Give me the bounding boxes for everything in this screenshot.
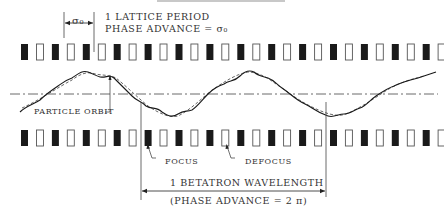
defocus-magnet <box>191 44 198 60</box>
lattice-period-label: 1 LATTICE PERIOD <box>105 12 210 22</box>
defocus-magnet <box>37 130 44 146</box>
focus-magnet <box>21 44 28 60</box>
defocus-magnet <box>37 44 44 60</box>
focus-magnet <box>361 130 368 146</box>
focus-magnet <box>52 130 59 146</box>
defocus-magnet <box>438 44 444 60</box>
defocus-label: DEFOCUS <box>245 158 292 166</box>
defocus-magnet <box>315 44 322 60</box>
defocus-magnet <box>67 130 74 146</box>
focus-label: FOCUS <box>165 158 198 166</box>
focus-magnet <box>237 130 244 146</box>
defocus-magnet <box>98 130 105 146</box>
phase-advance-sigma-label: PHASE ADVANCE = σ₀ <box>105 24 228 34</box>
defocus-leader <box>226 144 236 158</box>
defocus-magnet <box>315 130 322 146</box>
defocus-magnet <box>129 44 136 60</box>
defocus-magnet <box>407 44 414 60</box>
focus-magnet <box>83 44 90 60</box>
defocus-magnet <box>98 44 105 60</box>
defocus-magnet <box>160 130 167 146</box>
defocus-magnet <box>407 130 414 146</box>
focus-magnet <box>330 44 337 60</box>
defocus-magnet <box>160 44 167 60</box>
defocus-magnet <box>376 130 383 146</box>
focus-magnet <box>206 44 213 60</box>
focus-magnet <box>268 44 275 60</box>
betatron-wavelength-label: 1 BETATRON WAVELENGTH <box>170 178 324 188</box>
defocus-magnet <box>284 130 291 146</box>
defocus-magnet <box>67 44 74 60</box>
focus-magnet <box>176 130 183 146</box>
focus-magnet <box>52 44 59 60</box>
focus-magnet <box>145 130 152 146</box>
defocus-magnet <box>191 130 198 146</box>
phase-advance-2pi-label: (PHASE ADVANCE = 2 π) <box>170 196 307 206</box>
focus-leader <box>147 144 157 158</box>
focus-magnet <box>423 44 430 60</box>
defocus-magnet <box>345 130 352 146</box>
defocus-magnet <box>129 130 136 146</box>
focus-magnet <box>299 44 306 60</box>
focus-magnet <box>237 44 244 60</box>
focus-magnet <box>21 130 28 146</box>
focus-magnet <box>299 130 306 146</box>
focus-magnet <box>423 130 430 146</box>
focus-magnet <box>392 130 399 146</box>
sigma-label: σ₀ <box>72 16 84 26</box>
focus-magnet <box>206 130 213 146</box>
focus-magnet <box>145 44 152 60</box>
focus-magnet <box>114 44 121 60</box>
focus-magnet <box>114 130 121 146</box>
focus-magnet <box>268 130 275 146</box>
focus-magnet <box>392 44 399 60</box>
top-magnet-row <box>21 44 444 60</box>
defocus-magnet <box>345 44 352 60</box>
defocus-magnet <box>222 44 229 60</box>
defocus-magnet <box>222 130 229 146</box>
focus-magnet <box>83 130 90 146</box>
defocus-magnet <box>376 44 383 60</box>
focus-magnet <box>330 130 337 146</box>
focus-magnet <box>361 44 368 60</box>
defocus-magnet <box>438 130 444 146</box>
bottom-magnet-row <box>21 130 444 146</box>
particle-orbit-label: PARTICLE ORBIT <box>34 108 114 116</box>
defocus-magnet <box>284 44 291 60</box>
focus-magnet <box>176 44 183 60</box>
defocus-magnet <box>253 44 260 60</box>
defocus-magnet <box>253 130 260 146</box>
